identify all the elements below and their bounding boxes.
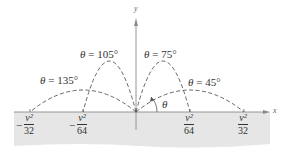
- equals-sign: =: [48, 74, 54, 86]
- tick-label-v2-64: v² 64: [184, 113, 194, 136]
- label-theta-45: θ = 45°: [188, 76, 221, 88]
- theta-symbol: θ: [80, 48, 85, 60]
- tick-label-neg-v2-64: v² 64: [77, 113, 87, 136]
- tick-label-neg-v2-32: v² 32: [24, 113, 34, 136]
- equals-sign: =: [88, 48, 94, 60]
- trajectory-105: [83, 61, 136, 112]
- label-theta-75: θ = 75°: [144, 48, 177, 60]
- x-axis-label: x: [273, 106, 277, 115]
- theta-symbol: θ: [188, 76, 193, 88]
- ground-region: [14, 112, 270, 148]
- trajectory-45: [136, 90, 244, 112]
- angle-value: 45°: [205, 76, 220, 88]
- y-axis-label: y: [134, 4, 138, 13]
- y-axis-arrow-icon: [134, 18, 138, 26]
- angle-value: 135°: [57, 74, 78, 86]
- theta-symbol: θ: [40, 74, 45, 86]
- angle-marker-label: θ: [162, 98, 167, 110]
- trajectory-135: [30, 90, 136, 112]
- equals-sign: =: [196, 76, 202, 88]
- theta-symbol: θ: [144, 48, 149, 60]
- angle-value: 105°: [97, 48, 118, 60]
- label-theta-135: θ = 135°: [40, 74, 78, 86]
- tick-sign-neg-32: −: [16, 119, 22, 131]
- label-theta-105: θ = 105°: [80, 48, 118, 60]
- angle-value: 75°: [161, 48, 176, 60]
- tick-label-v2-32: v² 32: [238, 113, 248, 136]
- tick-sign-neg-64: −: [69, 119, 75, 131]
- equals-sign: =: [152, 48, 158, 60]
